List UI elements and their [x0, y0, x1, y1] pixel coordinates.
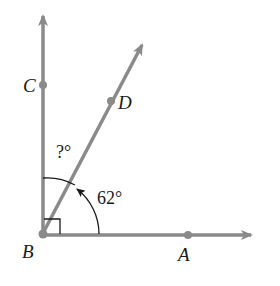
- angle-diagram: C D B A ?° 62°: [0, 0, 280, 286]
- point-d-dot: [107, 97, 115, 105]
- angle-arc-dba: [77, 189, 99, 234]
- label-b: B: [22, 241, 34, 262]
- label-c: C: [23, 75, 36, 96]
- point-c-dot: [39, 81, 47, 89]
- label-d: D: [117, 92, 132, 113]
- angle-label-unknown: ?°: [56, 142, 71, 162]
- point-b-dot: [39, 230, 48, 239]
- point-a-dot: [184, 231, 192, 239]
- angle-label-62: 62°: [97, 188, 122, 208]
- label-a: A: [176, 244, 190, 265]
